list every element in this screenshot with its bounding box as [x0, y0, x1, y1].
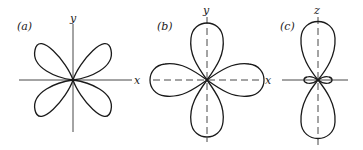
panel-label-a: (a) — [17, 20, 32, 33]
axis-label-y: y — [69, 12, 77, 25]
panel-c: (c) z — [280, 4, 348, 145]
orbital-diagram: (a) y x (b) y x (c) z — [0, 0, 363, 150]
axis-label-y: y — [202, 4, 210, 17]
panel-a: (a) y x — [17, 12, 141, 132]
axis-label-x: x — [265, 74, 272, 87]
panel-b: (b) y x — [150, 4, 272, 142]
panel-label-c: (c) — [280, 20, 295, 33]
panel-label-b: (b) — [157, 20, 173, 33]
axis-label-z: z — [313, 4, 320, 17]
axis-label-x: x — [134, 74, 141, 87]
